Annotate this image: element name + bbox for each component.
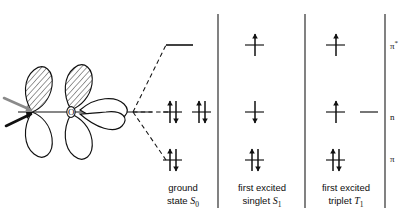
panel-dividers [218,14,385,208]
electron-pair-ground-pi [163,149,182,172]
orbital-label-pi-star: π* [390,39,398,51]
electron-pair-singlet-pi [245,149,264,172]
state-column-triplet [326,34,345,172]
correlation-line-pi [133,112,166,160]
caption-first-excited-singlet: first excited singlet S1 [220,182,304,211]
mo-state-diagram-figure: O [0,0,413,224]
electron-single-singlet-n [245,101,264,123]
electron-pair-ground-n-b [192,101,211,124]
correlation-fan [133,45,168,160]
orbital-label-pi: π [390,154,395,164]
caption-ground-state: ground state S0 [148,182,218,211]
electron-single-triplet-pi-star [326,34,345,56]
correlation-line-pi-star [133,45,166,112]
state-column-singlet [245,34,264,172]
electron-single-singlet-pi-star [245,34,264,56]
electron-pair-triplet-pi [326,149,345,172]
orbital-label-n: n [390,112,395,122]
caption-first-excited-triplet: first excited triplet T1 [307,182,385,211]
state-column-ground [163,45,211,171]
electron-single-triplet-n [326,101,345,123]
electron-pair-ground-n-a [163,101,182,124]
